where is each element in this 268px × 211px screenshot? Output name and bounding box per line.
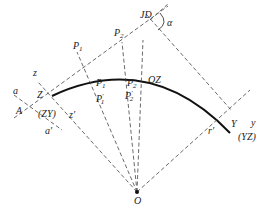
label-P2-top: P2 [113,27,124,40]
label-z: z [32,67,37,78]
label-Z: Z [37,89,43,100]
curve-diagram: JD α P1 P2 P1 P2 P′1 P′2 QZ z Z a A (ZY)… [0,0,268,211]
radius-to-Y [137,90,250,192]
label-r-prime: r′ [208,125,215,136]
label-a: a [13,85,18,96]
label-P2-prime: P′2 [124,89,134,103]
label-Y: Y [231,118,238,129]
radius-to-Z [38,82,137,192]
tangent-line-right [146,14,232,111]
label-y: y [250,117,256,128]
alpha-arc [158,13,164,30]
radius-to-QZ [137,40,143,192]
label-a-prime: a′ [45,125,53,136]
label-ZY: (ZY) [38,108,56,120]
label-P1-top: P1 [72,40,83,53]
center-point-O [135,190,139,194]
label-P1-prime: P′1 [95,92,104,106]
label-JD: JD [140,9,152,20]
label-QZ: QZ [148,74,161,85]
radius-to-P1 [77,52,137,192]
label-alpha: α [167,17,173,28]
tangent-line-left [14,6,168,118]
label-O: O [134,195,141,206]
tangent-extension [150,4,168,20]
label-YZ: (YZ) [238,131,256,143]
label-z-prime: z′ [68,109,76,120]
radius-to-P2 [122,42,137,192]
label-A: A [15,105,23,116]
label-P1-mid: P1 [95,77,106,90]
